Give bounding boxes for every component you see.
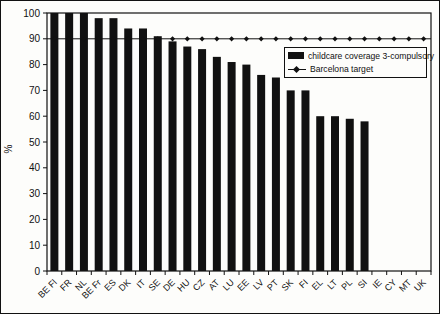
y-tick-label: 50 (29, 137, 41, 148)
target-marker (214, 36, 219, 41)
target-marker (288, 36, 293, 41)
chart-legend: childcare coverage 3-compulsory Barcelon… (284, 47, 427, 78)
line-diamond-icon (288, 66, 306, 73)
x-category-label: CZ (191, 277, 207, 293)
x-category-label: SE (147, 277, 163, 293)
bar (198, 49, 206, 271)
target-marker (406, 36, 411, 41)
target-marker (332, 36, 337, 41)
x-category-label: BE Fl (36, 277, 59, 300)
bar (154, 36, 162, 271)
target-marker (362, 36, 367, 41)
y-tick-label: 0 (34, 266, 40, 277)
x-category-label: LT (325, 277, 339, 291)
y-tick-label: 20 (29, 214, 41, 225)
x-category-label: EL (310, 277, 325, 292)
legend-line-label: Barcelona target (310, 65, 373, 74)
target-marker (185, 36, 190, 41)
bar (361, 121, 369, 271)
x-category-label: CY (383, 277, 399, 293)
bar (80, 13, 88, 271)
y-axis-title: % (3, 144, 14, 153)
x-category-label: UK (412, 277, 428, 293)
bar (257, 75, 265, 271)
bar (139, 28, 147, 271)
x-category-label: FR (58, 277, 74, 293)
x-category-label: HU (175, 277, 191, 293)
bar (331, 116, 339, 271)
target-marker (303, 36, 308, 41)
bar (346, 119, 354, 271)
bar-swatch-icon (288, 52, 304, 59)
bar (213, 57, 221, 271)
x-category-label: SI (356, 277, 369, 290)
target-marker (170, 36, 175, 41)
target-marker (259, 36, 264, 41)
x-category-label: FI (297, 277, 310, 290)
y-tick-label: 90 (29, 33, 41, 44)
target-marker (347, 36, 352, 41)
target-marker (199, 36, 204, 41)
bar (95, 18, 103, 271)
bar (124, 28, 132, 271)
target-marker (318, 36, 323, 41)
target-marker (273, 36, 278, 41)
y-tick-label: 100 (23, 8, 40, 19)
x-category-label: AT (207, 277, 222, 292)
x-category-label: PT (265, 277, 281, 293)
y-tick-label: 30 (29, 188, 41, 199)
bar (301, 90, 309, 271)
target-marker (377, 36, 382, 41)
bar (65, 13, 73, 271)
bar (242, 65, 250, 271)
y-tick-label: 70 (29, 85, 41, 96)
x-category-label: PL (339, 277, 354, 292)
legend-item-bar: childcare coverage 3-compulsory (288, 49, 423, 62)
bar (169, 41, 177, 271)
x-category-label: MT (397, 277, 414, 294)
x-category-label: IE (371, 277, 384, 290)
x-category-label: ES (102, 277, 118, 293)
target-marker (421, 36, 426, 41)
bar (109, 18, 117, 271)
x-category-label: EE (235, 277, 251, 293)
target-marker (229, 36, 234, 41)
bar (316, 116, 324, 271)
x-category-label: IT (135, 277, 148, 290)
y-tick-label: 80 (29, 59, 41, 70)
legend-bar-label: childcare coverage 3-compulsory (308, 52, 434, 61)
bar (272, 78, 280, 272)
chart-figure: 0102030405060708090100%BE FlFRNLBE FrESD… (0, 0, 440, 314)
x-category-label: DK (117, 277, 133, 293)
y-tick-label: 60 (29, 111, 41, 122)
legend-item-line: Barcelona target (288, 63, 423, 76)
bar (287, 90, 295, 271)
y-tick-label: 10 (29, 240, 41, 251)
bar (50, 13, 58, 271)
x-category-label: LV (251, 277, 265, 291)
y-tick-label: 40 (29, 162, 41, 173)
target-marker (244, 36, 249, 41)
x-category-label: DE (161, 277, 177, 293)
x-category-label: LU (221, 277, 236, 292)
bar (183, 47, 191, 271)
bar (228, 62, 236, 271)
x-category-label: SK (280, 277, 296, 293)
target-marker (391, 36, 396, 41)
